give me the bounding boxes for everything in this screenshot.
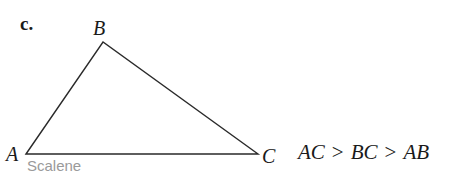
relation-operator-2: >	[385, 140, 397, 164]
relation-term-1: AC	[298, 140, 325, 164]
relation-operator-1: >	[332, 140, 344, 164]
part-label: c.	[20, 13, 33, 35]
side-length-relation: AC>BC>AB	[298, 140, 429, 165]
vertex-label-c: C	[262, 145, 275, 168]
relation-term-3: AB	[403, 140, 429, 164]
triangle-abc	[26, 42, 258, 154]
vertex-label-b: B	[93, 17, 105, 40]
vertex-label-a: A	[6, 143, 18, 166]
classification-label: Scalene	[27, 157, 81, 173]
relation-term-2: BC	[351, 140, 378, 164]
